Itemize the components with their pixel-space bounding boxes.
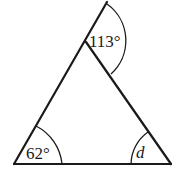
triangle-right-side	[86, 42, 171, 164]
angle-label-62: 62°	[26, 144, 50, 163]
angle-label-d: d	[136, 143, 145, 162]
triangle-diagram: 113° 62° d	[0, 0, 180, 178]
angle-label-113: 113°	[89, 32, 121, 51]
triangle-left-side-extended	[14, 2, 107, 164]
